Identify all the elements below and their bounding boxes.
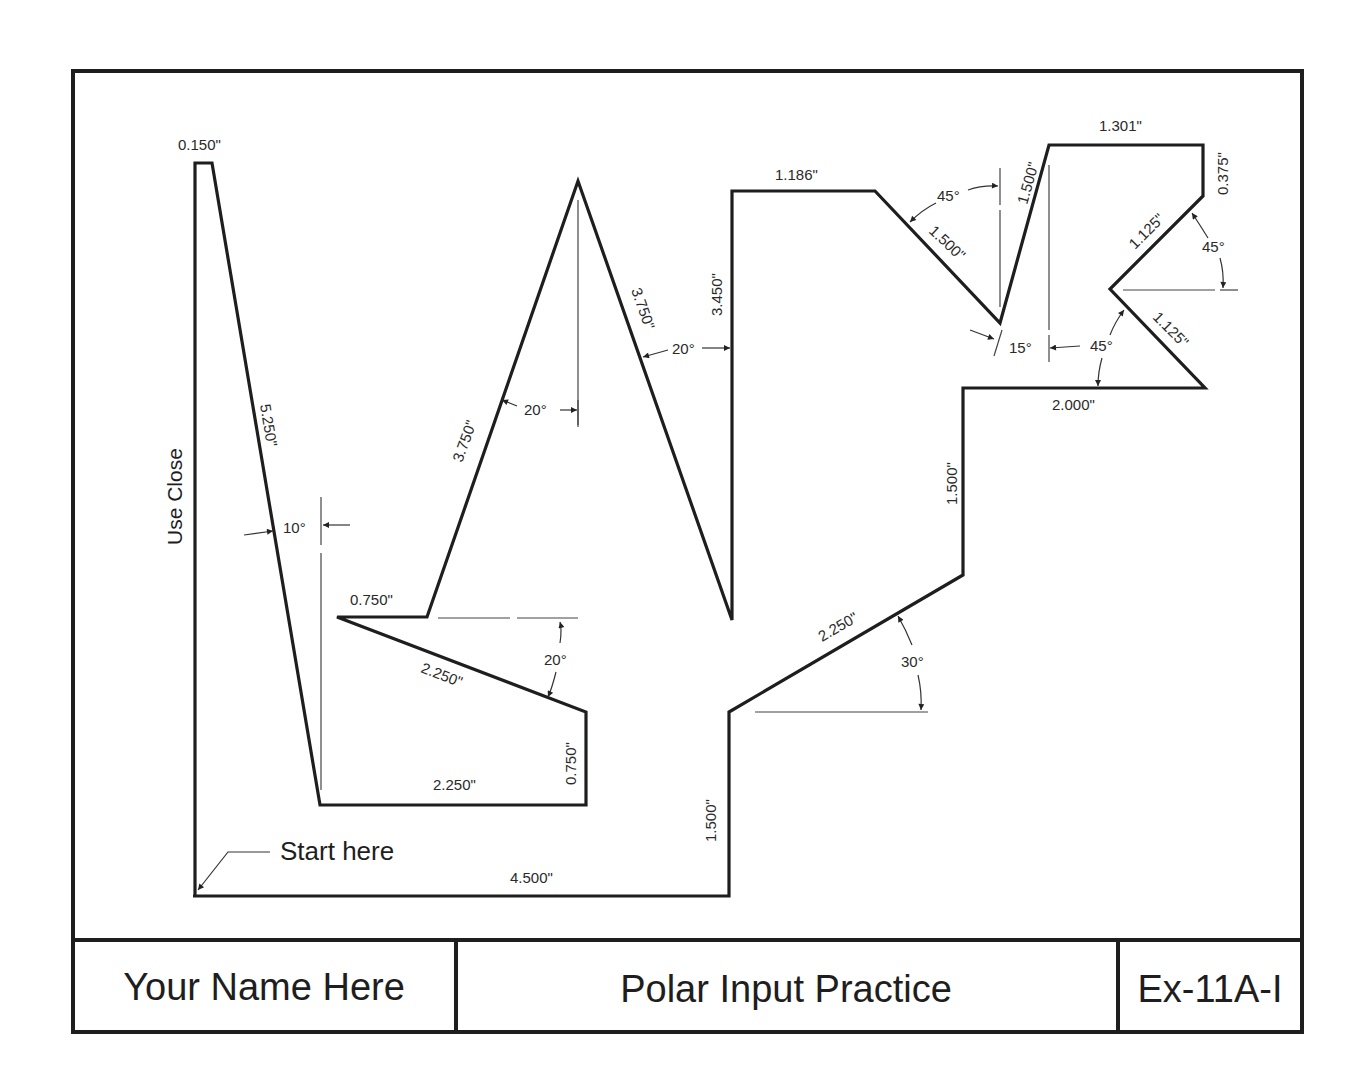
dim-20deg-right: 20° <box>643 340 730 357</box>
dim-1500-mid-vert: 1.500" <box>943 462 960 505</box>
svg-text:20°: 20° <box>544 651 567 668</box>
svg-text:20°: 20° <box>672 340 695 357</box>
dim-1125-lower: 1.125" <box>1150 308 1192 350</box>
drawing-border <box>73 71 1302 1032</box>
svg-text:45°: 45° <box>1202 238 1225 255</box>
dim-20deg-left: 20° <box>502 200 578 427</box>
dim-0750-vert: 0.750" <box>562 742 579 785</box>
dim-1500-diag: 1.500" <box>926 222 969 264</box>
dim-10deg: 10° <box>244 497 350 790</box>
dim-3750-right: 3.750" <box>628 285 658 331</box>
dim-0375: 0.375" <box>1214 152 1231 195</box>
dim-5250: 5.250" <box>257 403 281 448</box>
dim-0150: 0.150" <box>178 136 221 153</box>
dim-2250-bottom: 2.250" <box>433 776 476 793</box>
use-close-label: Use Close <box>163 448 186 545</box>
object-outline <box>193 145 1205 896</box>
dim-1186: 1.186" <box>775 166 818 183</box>
start-here-label: Start here <box>280 836 394 866</box>
svg-text:30°: 30° <box>901 653 924 670</box>
cad-drawing: Your Name Here Polar Input Practice Ex-1… <box>0 0 1369 1090</box>
title-block: Your Name Here Polar Input Practice Ex-1… <box>73 940 1302 1032</box>
dim-1500-lower-vert: 1.500" <box>702 799 719 842</box>
exercise-number: Ex-11A-I <box>1137 968 1282 1010</box>
dim-2000: 2.000" <box>1052 396 1095 413</box>
svg-text:45°: 45° <box>1090 337 1113 354</box>
dim-4500: 4.500" <box>510 869 553 886</box>
dim-45deg-lower: 45° <box>1090 310 1124 386</box>
dim-3450: 3.450" <box>708 273 725 316</box>
dim-1301: 1.301" <box>1099 117 1142 134</box>
dim-3750-left: 3.750" <box>449 418 480 464</box>
student-name-field[interactable]: Your Name Here <box>123 966 405 1008</box>
svg-text:10°: 10° <box>283 519 306 536</box>
dim-1125-upper: 1.125" <box>1125 210 1167 252</box>
dim-0750-top: 0.750" <box>350 591 393 608</box>
svg-text:45°: 45° <box>937 187 960 204</box>
svg-text:20°: 20° <box>524 401 547 418</box>
drawing-title: Polar Input Practice <box>620 968 952 1010</box>
svg-text:15°: 15° <box>1009 339 1032 356</box>
start-note: Start here <box>198 836 394 890</box>
